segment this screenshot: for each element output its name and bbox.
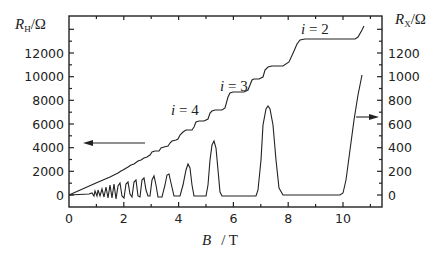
svg-text:RH/Ω: RH/Ω [14, 16, 46, 34]
svg-text:6: 6 [229, 211, 237, 226]
right-tick-labels: 0 200 400 600 800 1000 1200 [388, 46, 420, 203]
svg-text:0: 0 [56, 188, 64, 203]
svg-text:400: 400 [388, 140, 412, 155]
svg-text:6000: 6000 [32, 117, 64, 132]
svg-text:2000: 2000 [32, 164, 64, 179]
annotation-i4: i = 4 [171, 102, 199, 118]
left-axis-ticks [69, 29, 74, 195]
svg-text:2: 2 [120, 211, 128, 226]
svg-text:800: 800 [388, 93, 412, 108]
svg-text:8: 8 [284, 211, 292, 226]
plot-frame [69, 16, 382, 207]
svg-text:RX/Ω: RX/Ω [394, 11, 426, 29]
svg-text:0: 0 [65, 211, 73, 226]
chart: 0 2000 4000 6000 8000 10000 12000 0 200 … [0, 0, 446, 260]
svg-text:B/ T: B/ T [202, 232, 238, 248]
svg-text:600: 600 [388, 117, 412, 132]
bottom-axis-title: B/ T [202, 232, 238, 248]
svg-text:0: 0 [388, 188, 396, 203]
annotation-i3: i = 3 [220, 78, 248, 94]
svg-text:12000: 12000 [24, 46, 64, 61]
svg-text:4000: 4000 [32, 140, 64, 155]
svg-text:4: 4 [175, 211, 183, 226]
svg-text:200: 200 [388, 164, 412, 179]
bottom-axis-ticks [96, 202, 370, 207]
svg-text:1200: 1200 [388, 46, 420, 61]
right-axis-ticks [377, 29, 382, 195]
left-tick-labels: 0 2000 4000 6000 8000 10000 12000 [24, 46, 64, 203]
right-axis-arrow [356, 114, 379, 120]
svg-text:1000: 1000 [388, 69, 420, 84]
hall-resistance-curve [69, 26, 364, 195]
svg-text:10000: 10000 [24, 69, 64, 84]
annotation-i2: i = 2 [301, 21, 329, 37]
svg-text:10: 10 [335, 211, 351, 226]
left-axis-title: RH/Ω [14, 16, 46, 34]
svg-text:8000: 8000 [32, 93, 64, 108]
longitudinal-resistance-curve [69, 75, 362, 199]
right-axis-title: RX/Ω [394, 11, 426, 29]
bottom-tick-labels: 0 2 4 6 8 10 [65, 211, 351, 226]
left-axis-arrow [83, 140, 145, 146]
